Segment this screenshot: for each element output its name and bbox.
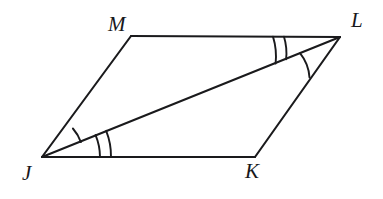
- vertex-label-m: M: [108, 14, 126, 35]
- angle-arc-MLJ-outer: [273, 37, 276, 64]
- angle-mark-L-lower-single: [300, 53, 310, 77]
- vertex-label-k: K: [245, 161, 259, 182]
- vertex-label-l: L: [351, 10, 363, 31]
- angle-mark-J-upper-single: [73, 129, 81, 143]
- parallelogram-drawing: [0, 0, 383, 199]
- geometry-figure: M L J K: [0, 0, 383, 199]
- angle-arc-LJK-outer: [106, 131, 111, 157]
- angle-arc-MJL: [73, 129, 81, 143]
- angle-arc-LJK-inner: [96, 135, 100, 157]
- side-ML: [131, 36, 340, 37]
- angle-arc-MLJ-inner: [284, 37, 286, 60]
- vertex-label-j: J: [22, 163, 31, 184]
- angle-arc-JLK-single: [300, 53, 310, 77]
